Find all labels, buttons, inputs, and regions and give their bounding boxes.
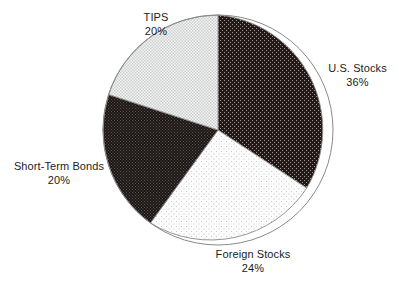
pie-label-us-stocks: U.S. Stocks 36% — [316, 62, 399, 89]
pie-label-short-term-bonds-value: 20% — [4, 174, 114, 188]
pie-label-foreign-stocks-value: 24% — [198, 262, 308, 276]
pie-label-short-term-bonds-name: Short-Term Bonds — [4, 160, 114, 174]
pie-label-us-stocks-name: U.S. Stocks — [316, 62, 399, 76]
pie-label-short-term-bonds: Short-Term Bonds 20% — [4, 160, 114, 187]
pie-label-foreign-stocks: Foreign Stocks 24% — [198, 248, 308, 275]
pie-label-foreign-stocks-name: Foreign Stocks — [198, 248, 308, 262]
pie-label-tips: TIPS 20% — [108, 11, 204, 38]
pie-label-tips-name: TIPS — [108, 11, 204, 25]
pie-label-tips-value: 20% — [108, 25, 204, 39]
pie-chart: TIPS 20% U.S. Stocks 36% Short-Term Bond… — [0, 0, 399, 283]
pie-chart-graphic — [0, 0, 399, 283]
pie-label-us-stocks-value: 36% — [316, 76, 399, 90]
